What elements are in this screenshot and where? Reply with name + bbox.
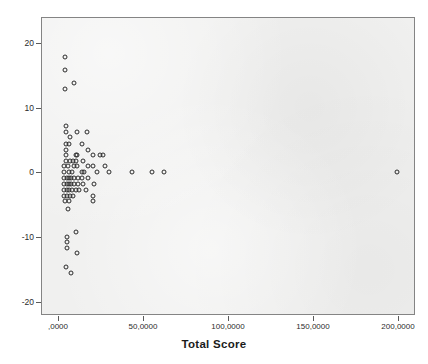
data-point [62, 170, 67, 175]
y-axis-tick [36, 108, 41, 109]
data-point [64, 123, 69, 128]
data-point [68, 135, 73, 140]
data-point [84, 187, 89, 192]
data-point [81, 170, 86, 175]
data-point [65, 240, 70, 245]
data-point [395, 170, 400, 175]
data-point [85, 130, 90, 135]
data-point [91, 153, 96, 158]
data-point [74, 251, 79, 256]
y-axis-tick-label: -10 [22, 232, 34, 242]
data-point [73, 158, 78, 163]
data-point [95, 170, 100, 175]
data-point [76, 187, 81, 192]
x-axis-tick [398, 316, 399, 321]
data-point [80, 181, 85, 186]
data-point [66, 207, 71, 212]
data-point [79, 176, 84, 181]
data-point [129, 170, 134, 175]
x-axis-tick [143, 316, 144, 321]
data-point [63, 87, 68, 92]
x-axis-tick-label: 150,0000 [296, 322, 329, 331]
data-point [86, 147, 91, 152]
data-point [64, 130, 69, 135]
data-point [64, 265, 69, 270]
data-point [71, 193, 76, 198]
y-axis-tick [36, 237, 41, 238]
data-point [74, 130, 79, 135]
y-axis-tick-label: -20 [22, 297, 34, 307]
data-point [100, 153, 105, 158]
data-point [80, 158, 85, 163]
y-axis-tick-label: 0 [29, 167, 34, 177]
y-axis-tick-label: 10 [25, 103, 34, 113]
data-point [69, 271, 74, 276]
x-axis-tick [228, 316, 229, 321]
x-axis-tick-label: 100,0000 [211, 322, 244, 331]
data-point [66, 164, 71, 169]
data-point [73, 229, 78, 234]
data-point [74, 164, 79, 169]
y-axis-tick [36, 302, 41, 303]
data-point [63, 54, 68, 59]
data-point [150, 170, 155, 175]
x-axis-tick-label: ,0000 [48, 322, 68, 331]
y-axis-tick [36, 172, 41, 173]
data-point [161, 170, 166, 175]
y-axis-tick-label: 20 [25, 38, 34, 48]
x-axis-tick [58, 316, 59, 321]
data-point [91, 193, 96, 198]
data-point [70, 170, 75, 175]
data-point [86, 176, 91, 181]
data-point [91, 199, 96, 204]
data-point [92, 181, 97, 186]
data-point [106, 170, 111, 175]
y-axis-tick [36, 43, 41, 44]
plot-background-texture [42, 18, 414, 314]
data-point [72, 81, 77, 86]
data-point [65, 245, 70, 250]
data-point [67, 141, 72, 146]
data-point [91, 164, 96, 169]
x-axis-title: Total Score [0, 338, 428, 350]
data-point [67, 199, 72, 204]
x-axis-tick-label: 200,0000 [381, 322, 414, 331]
scatter-plot-figure: 20100-10-20 ,000050,0000100,0000150,0000… [0, 0, 428, 364]
x-axis-tick [313, 316, 314, 321]
data-point [63, 68, 68, 73]
plot-area [41, 17, 415, 315]
data-point [64, 147, 69, 152]
data-point [79, 141, 84, 146]
data-point [102, 164, 107, 169]
x-axis-tick-label: 50,0000 [129, 322, 158, 331]
